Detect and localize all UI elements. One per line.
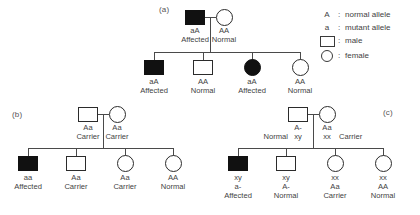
panel-c-father-caption: A- xy — [294, 123, 302, 141]
panel-a-child-2-symbol — [193, 60, 213, 75]
genotype: AA — [288, 77, 312, 86]
legend: A : normal allele a : mutant allele : ma… — [318, 8, 418, 64]
phenotype: Affected — [140, 86, 168, 95]
panel-label-a: (a) — [159, 5, 169, 14]
panel-c-child-1-symbol — [228, 156, 248, 171]
legend-row-male: : male — [318, 34, 418, 49]
legend-text: male — [345, 34, 362, 47]
phenotype: Normal — [212, 35, 236, 44]
panel-b-child-2-symbol — [66, 156, 86, 171]
sex-chromosomes: xy — [274, 173, 298, 182]
panel-a-child-drop-2 — [203, 52, 204, 60]
sex-chromosomes: xy — [294, 132, 302, 141]
genotype: AA — [371, 182, 395, 191]
panel-c-sibship-line — [238, 148, 383, 149]
genotype: AA — [161, 173, 185, 182]
phenotype: Normal — [371, 191, 395, 200]
panel-c-child-drop-2 — [286, 148, 287, 156]
sex-chromosomes: xy — [224, 173, 252, 182]
panel-b-child-1-symbol — [18, 156, 38, 171]
panel-a-father-caption: aA Affected — [181, 26, 209, 44]
panel-b-sibship-line — [28, 148, 173, 149]
legend-text: normal allele — [345, 8, 390, 21]
square-icon — [320, 36, 335, 47]
phenotype: Carrier — [105, 132, 128, 141]
legend-separator: : — [338, 34, 340, 47]
panel-a-child-1-symbol — [144, 60, 164, 75]
panel-c-child-3-caption: xx Aa Carrier — [323, 173, 346, 201]
panel-a-mother-caption: AA Normal — [212, 26, 236, 44]
phenotype: Normal — [161, 182, 185, 191]
panel-a-child-3-caption: aA Affected — [238, 77, 266, 95]
legend-separator: : — [338, 8, 340, 21]
panel-b-child-4-caption: AA Normal — [161, 173, 185, 191]
genotype: Aa — [322, 123, 331, 132]
panel-b-mother-symbol — [109, 106, 126, 123]
panel-a-mother-symbol — [216, 9, 233, 26]
panel-b-child-3-symbol — [117, 155, 134, 172]
panel-b-child-3-caption: Aa Carrier — [113, 173, 136, 191]
phenotype: Carrier — [113, 182, 136, 191]
panel-b-child-drop-2 — [76, 148, 77, 156]
panel-b-father-caption: Aa Carrier — [76, 123, 99, 141]
panel-c-father-phenotype: Normal — [264, 132, 288, 141]
phenotype: Affected — [14, 182, 42, 191]
legend-row-normal-allele: A : normal allele — [318, 8, 418, 21]
genotype: Aa — [105, 123, 128, 132]
genotype: aA — [140, 77, 168, 86]
panel-b-father-symbol — [78, 107, 98, 122]
pedigree-figure: (a) aA Affected AA Normal aA Affected AA… — [0, 0, 420, 215]
legend-row-female: : female — [318, 49, 418, 64]
panel-c-child-3-symbol — [327, 155, 344, 172]
genotype: AA — [191, 77, 215, 86]
panel-a-child-1-caption: aA Affected — [140, 77, 168, 95]
phenotype: Affected — [238, 86, 266, 95]
genotype: aA — [238, 77, 266, 86]
panel-a-child-3-symbol — [244, 59, 261, 76]
panel-a-child-4-caption: AA Normal — [288, 77, 312, 95]
circle-icon — [321, 50, 333, 62]
panel-c-mother-phenotype: Carrier — [339, 132, 362, 141]
panel-b-descent-line — [103, 114, 104, 148]
genotype: Aa — [64, 173, 87, 182]
legend-key: A — [318, 8, 336, 21]
phenotype: Carrier — [76, 132, 99, 141]
genotype: A- — [294, 123, 302, 132]
panel-a-child-2-caption: AA Normal — [191, 77, 215, 95]
panel-a-child-4-symbol — [292, 59, 309, 76]
panel-c-child-4-caption: xx AA Normal — [371, 173, 395, 201]
legend-text: female — [345, 49, 369, 62]
phenotype: Affected — [224, 191, 252, 200]
genotype: A- — [274, 182, 298, 191]
genotype: aa — [14, 173, 42, 182]
phenotype: Normal — [288, 86, 312, 95]
panel-b-child-1-caption: aa Affected — [14, 173, 42, 191]
panel-c-child-drop-1 — [238, 148, 239, 156]
legend-text: mutant allele — [345, 21, 390, 34]
panel-c-child-2-symbol — [276, 156, 296, 171]
genotype: Aa — [113, 173, 136, 182]
genotype: Aa — [323, 182, 346, 191]
panel-c-father-symbol — [288, 107, 308, 122]
sex-chromosomes: xx — [323, 173, 346, 182]
phenotype: Carrier — [64, 182, 87, 191]
panel-c-descent-line — [313, 114, 314, 148]
panel-c-child-2-caption: xy A- Normal — [274, 173, 298, 201]
panel-c-mother-symbol — [319, 106, 336, 123]
legend-separator: : — [338, 21, 340, 34]
panel-label-b: (b) — [12, 110, 22, 119]
phenotype: Carrier — [323, 191, 346, 200]
phenotype: Affected — [181, 35, 209, 44]
panel-a-father-symbol — [185, 10, 205, 25]
panel-a-sibship-line — [154, 52, 300, 53]
panel-a-child-drop-1 — [154, 52, 155, 60]
genotype: a- — [224, 182, 252, 191]
genotype: AA — [212, 26, 236, 35]
panel-c-child-1-caption: xy a- Affected — [224, 173, 252, 201]
sex-chromosomes: xx — [371, 173, 395, 182]
panel-c-mother-caption: Aa xx — [322, 123, 331, 141]
panel-label-c: (c) — [383, 108, 393, 117]
phenotype: Normal — [191, 86, 215, 95]
legend-separator: : — [338, 49, 340, 62]
genotype: aA — [181, 26, 209, 35]
